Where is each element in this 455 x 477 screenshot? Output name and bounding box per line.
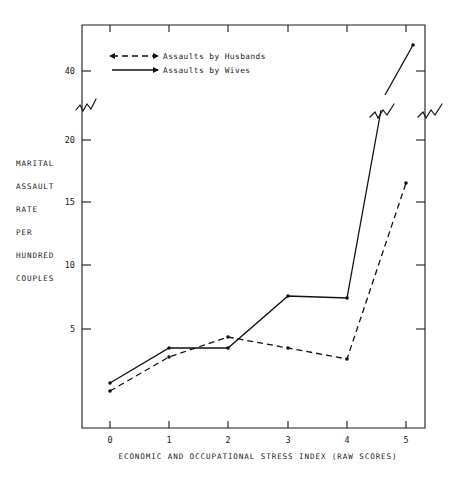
series-husbands-point-4 <box>345 357 349 361</box>
x-tick-label-0: 0 <box>107 435 112 445</box>
plot-frame <box>82 25 425 428</box>
series-wives-point-4 <box>345 296 349 300</box>
series-assaults-by-wives <box>108 43 415 385</box>
y-axis-title-line-1: MARITAL <box>16 159 54 168</box>
x-tick-label-2: 2 <box>225 435 230 445</box>
right-axis-break-icon <box>418 104 442 118</box>
y-axis-title-line-3: RATE <box>16 205 38 214</box>
y-tick-label-40: 40 <box>65 66 75 76</box>
legend: Assaults by Husbands Assaults by Wives <box>109 52 266 75</box>
legend-swatch-husbands-arrow-left <box>109 53 115 59</box>
line-chart: 40 20 15 10 5 0 1 2 3 4 5 ECONOM <box>0 0 455 477</box>
x-axis-title: ECONOMIC AND OCCUPATIONAL STRESS INDEX (… <box>118 452 397 461</box>
x-tick-label-4: 4 <box>344 435 349 445</box>
x-tick-label-1: 1 <box>166 435 171 445</box>
series-husbands-point-5 <box>404 181 408 185</box>
legend-swatch-husbands-arrow-right <box>153 53 159 59</box>
legend-label-wives: Assaults by Wives <box>163 66 250 75</box>
legend-label-husbands: Assaults by Husbands <box>163 52 266 61</box>
y-tick-label-5: 5 <box>70 324 75 334</box>
x-axis-ticks <box>110 25 406 428</box>
legend-swatch-wives-arrow-right <box>153 67 159 73</box>
series-wives-break-icon <box>370 104 394 118</box>
chart-container: 40 20 15 10 5 0 1 2 3 4 5 ECONOM <box>0 0 455 477</box>
y-axis-title-line-4: PER <box>16 228 32 237</box>
series-husbands-point-2 <box>226 335 230 339</box>
series-wives-point-3 <box>286 294 290 298</box>
series-wives-point-2 <box>226 346 230 350</box>
y-tick-label-10: 10 <box>65 260 75 270</box>
y-axis-title-line-2: ASSAULT <box>16 182 54 191</box>
y-axis-title-line-5: HUNDRED <box>16 251 54 260</box>
series-wives-point-0 <box>108 381 112 385</box>
x-tick-label-5: 5 <box>403 435 408 445</box>
series-husbands-point-3 <box>286 346 290 350</box>
y-tick-label-20: 20 <box>65 135 75 145</box>
series-husbands-point-0 <box>108 389 112 393</box>
y-tick-label-15: 15 <box>65 197 75 207</box>
x-tick-label-3: 3 <box>285 435 290 445</box>
y-axis-break-icon <box>76 99 96 111</box>
series-husbands-point-1 <box>167 355 171 359</box>
series-wives-point-1 <box>167 346 171 350</box>
series-wives-line-lower <box>110 110 381 383</box>
y-axis-title: MARITAL ASSAULT RATE PER HUNDRED COUPLES <box>16 159 54 283</box>
series-wives-point-5 <box>411 43 415 47</box>
series-wives-line-upper <box>385 45 413 95</box>
y-axis-ticks <box>82 71 425 329</box>
y-axis-title-line-6: COUPLES <box>16 274 54 283</box>
